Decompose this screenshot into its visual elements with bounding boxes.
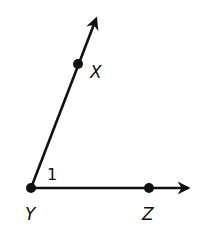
ray-yx: [31, 19, 96, 188]
point-z: [144, 183, 154, 193]
point-x: [73, 59, 83, 69]
point-y: [26, 183, 36, 193]
label-y: Y: [25, 204, 37, 224]
diagram-canvas: X Y Z 1: [0, 0, 204, 239]
label-z: Z: [141, 204, 154, 224]
angle-label: 1: [47, 165, 57, 184]
label-x: X: [89, 62, 102, 82]
angle-diagram: X Y Z 1: [0, 0, 204, 239]
